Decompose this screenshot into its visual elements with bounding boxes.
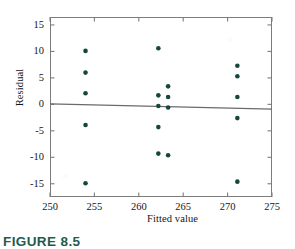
chart-canvas [50,17,272,197]
y-tick-label: -15 [16,179,44,190]
zero-residual-line [50,104,272,109]
figure-caption: FIGURE 8.5 [3,234,81,249]
plot-area: 151050-5-10-15 250255260265270275 [50,17,272,197]
data-point [83,49,88,54]
data-point [83,70,88,75]
data-point [83,91,88,96]
y-tick-label: -10 [16,152,44,163]
x-tick-label: 255 [87,202,103,213]
data-point [156,125,161,130]
data-point [83,123,88,128]
data-point [83,181,88,186]
data-point [156,93,161,98]
x-tick-label: 250 [42,202,58,213]
x-tick-label: 275 [264,202,280,213]
data-point [235,63,240,68]
data-point [166,153,171,158]
data-point [235,74,240,79]
data-points [83,46,239,186]
x-axis-title: Fitted value [0,213,295,224]
data-point [235,179,240,184]
data-point [235,95,240,100]
data-point [166,95,171,100]
x-tick-label: 260 [131,202,147,213]
data-point [156,104,161,109]
data-point [166,84,171,89]
data-point [156,151,161,156]
data-point [235,116,240,121]
data-point [166,105,171,110]
x-tick-label: 265 [175,202,191,213]
y-axis-title: Residual [14,48,25,128]
data-point [156,46,161,51]
y-tick-label: 15 [16,20,44,31]
x-tick-label: 270 [220,202,236,213]
